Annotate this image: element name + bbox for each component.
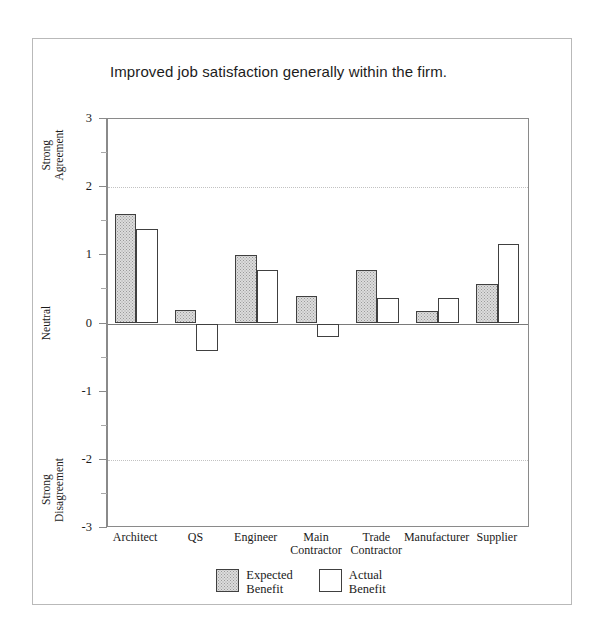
bar-actual	[196, 324, 218, 352]
y-axis-annotation-line: Agreement	[53, 130, 66, 181]
y-tick-major	[99, 527, 107, 528]
gridline	[108, 187, 528, 188]
legend-item: ExpectedBenefit	[216, 568, 293, 597]
bar-expected	[296, 296, 318, 323]
gridline	[108, 460, 528, 461]
bar-expected	[235, 255, 257, 323]
y-tick-major	[99, 118, 107, 119]
y-tick-label: 3	[66, 111, 92, 126]
bar-actual	[136, 229, 158, 324]
x-category-label: TradeContractor	[351, 531, 402, 558]
y-tick-label: -2	[66, 451, 92, 466]
bar-actual	[257, 270, 279, 323]
chart-title: Improved job satisfaction generally with…	[110, 63, 447, 80]
legend-item: ActualBenefit	[319, 568, 386, 597]
y-axis-annotation-line: Strong	[40, 458, 53, 522]
y-tick-label: -1	[66, 383, 92, 398]
y-tick-major	[99, 186, 107, 187]
y-axis-annotation: StrongAgreement	[40, 130, 66, 181]
x-category-label-line: Engineer	[234, 531, 277, 544]
x-category-label: Manufacturer	[404, 531, 469, 544]
legend-label-line: Expected	[246, 568, 293, 582]
caption-ghost	[34, 626, 554, 635]
x-category-label: Supplier	[477, 531, 518, 544]
x-category-label-line: Main	[290, 531, 341, 544]
y-tick-major	[99, 391, 107, 392]
bar-expected	[175, 310, 197, 324]
y-tick-major	[99, 254, 107, 255]
bar-expected	[476, 284, 498, 324]
bar-expected	[356, 270, 378, 323]
x-category-label-line: Manufacturer	[404, 531, 469, 544]
x-axis-category-labels: ArchitectQSEngineerMainContractorTradeCo…	[107, 531, 529, 565]
bar-actual	[438, 298, 460, 324]
x-category-label-line: Supplier	[477, 531, 518, 544]
legend-label-line: Benefit	[349, 582, 386, 596]
y-axis-annotation-line: Strong	[40, 130, 53, 181]
bar-actual	[317, 324, 339, 338]
bar-expected	[416, 311, 438, 323]
x-category-label: QS	[188, 531, 203, 544]
y-tick-major	[99, 323, 107, 324]
y-axis-annotation: Neutral	[40, 305, 53, 339]
x-category-label-line: Contractor	[290, 544, 341, 557]
y-axis-annotation-line: Disagreement	[53, 458, 66, 522]
y-tick-label: 1	[66, 247, 92, 262]
bar-actual	[498, 244, 520, 324]
y-axis-annotation: StrongDisagreement	[40, 458, 66, 522]
bar-actual	[377, 298, 399, 324]
y-axis-tick-labels: 3210-1-2-3	[66, 118, 92, 527]
legend-label-line: Actual	[349, 568, 386, 582]
x-category-label: Architect	[113, 531, 158, 544]
x-category-label-line: Architect	[113, 531, 158, 544]
y-axis-annotation-line: Neutral	[40, 305, 53, 339]
y-tick-label: 0	[66, 315, 92, 330]
x-category-label: MainContractor	[290, 531, 341, 558]
bar-expected	[115, 214, 137, 323]
legend-label: ActualBenefit	[349, 568, 386, 597]
plot-area	[107, 118, 529, 527]
legend-label-line: Benefit	[246, 582, 293, 596]
x-category-label-line: Contractor	[351, 544, 402, 557]
legend-swatch-actual	[319, 569, 342, 592]
chart-legend: ExpectedBenefitActualBenefit	[0, 568, 602, 597]
x-category-label: Engineer	[234, 531, 277, 544]
y-tick-label: -3	[66, 520, 92, 535]
y-tick-label: 2	[66, 179, 92, 194]
legend-swatch-expected	[216, 569, 239, 592]
x-category-label-line: Trade	[351, 531, 402, 544]
y-tick-major	[99, 459, 107, 460]
x-category-label-line: QS	[188, 531, 203, 544]
legend-label: ExpectedBenefit	[246, 568, 293, 597]
